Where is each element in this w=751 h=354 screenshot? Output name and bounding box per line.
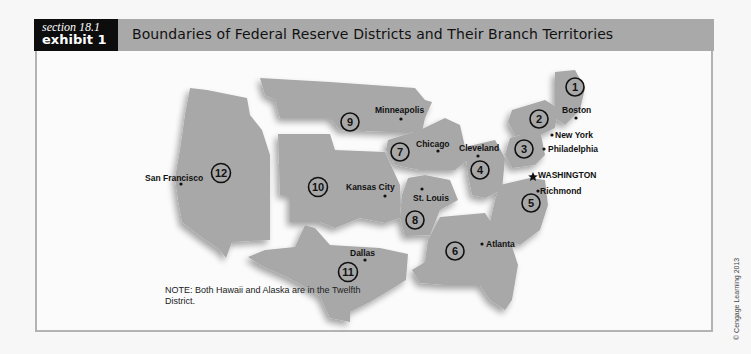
city-label-philadelphia: Philadelphia — [548, 144, 598, 154]
city-dot-dallas — [363, 258, 366, 261]
city-label-richmond: Richmond — [540, 186, 582, 196]
district-1-number: 1 — [572, 81, 578, 93]
district-10-region — [278, 134, 400, 228]
district-7-number: 7 — [397, 146, 403, 158]
district-6-number: 6 — [452, 245, 458, 257]
city-dot-chicago — [436, 149, 439, 152]
district-2-number: 2 — [536, 113, 542, 125]
copyright-credit: © Cengage Learning 2013 — [733, 258, 740, 340]
city-dot-boston — [574, 116, 577, 119]
city-label-dallas: Dallas — [350, 248, 375, 258]
district-9-number: 9 — [347, 116, 353, 128]
city-label-san-francisco: San Francisco — [145, 173, 203, 183]
city-dot-kansas-city — [383, 194, 386, 197]
city-label-st-louis: St. Louis — [413, 193, 449, 203]
city-dot-philadelphia — [542, 147, 545, 150]
district-11-number: 11 — [342, 266, 354, 278]
city-label-kansas-city: Kansas City — [346, 182, 395, 192]
district-10-number: 10 — [312, 181, 324, 193]
district-12-number: 12 — [215, 167, 227, 179]
district-1-region — [555, 70, 585, 125]
city-label-minneapolis: Minneapolis — [375, 105, 424, 115]
district-2-region — [508, 100, 558, 135]
city-label-cleveland: Cleveland — [459, 143, 499, 153]
district-8-number: 8 — [412, 214, 418, 226]
city-label-boston: Boston — [562, 105, 591, 115]
district-5-number: 5 — [528, 197, 534, 209]
city-dot-atlanta — [480, 242, 483, 245]
city-dot-st-louis — [420, 187, 423, 190]
capital-label: WASHINGTON — [538, 170, 596, 180]
district-11-region — [248, 225, 408, 322]
city-dot-cleveland — [476, 154, 479, 157]
city-dot-new-york — [550, 133, 553, 136]
district-3-number: 3 — [521, 143, 527, 155]
city-dot-minneapolis — [399, 117, 402, 120]
map-note: NOTE: Both Hawaii and Alaska are in the … — [165, 285, 365, 307]
city-label-chicago: Chicago — [416, 139, 450, 149]
city-label-new-york: New York — [555, 130, 593, 140]
district-4-number: 4 — [477, 164, 484, 176]
city-label-atlanta: Atlanta — [486, 239, 515, 249]
fed-district-map: 1 2 3 4 5 6 7 8 9 10 11 12 Boston New Yo… — [0, 0, 751, 354]
